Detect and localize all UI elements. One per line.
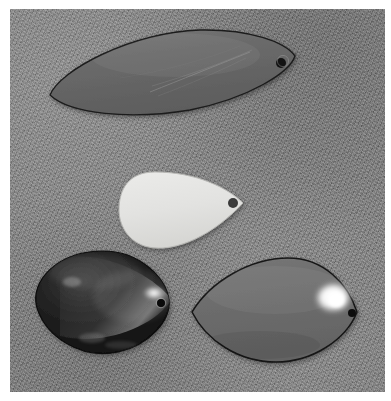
blade-colorado-dark-sheen — [49, 255, 173, 349]
blade-willow-top[interactable] — [50, 30, 295, 115]
photograph-canvas: Four metal fishing lure blades on textur… — [0, 0, 391, 401]
blade-colorado-white-body — [119, 172, 243, 248]
blade-colorado-white-hole-inner — [230, 200, 236, 206]
blade-colorado-dark[interactable] — [36, 251, 173, 354]
blade-colorado-dark-hole — [157, 299, 165, 307]
blade-indiana-gray-hole — [348, 309, 356, 317]
blade-indiana-gray[interactable] — [192, 258, 357, 362]
blade-colorado-white[interactable] — [119, 172, 243, 248]
blade-group — [0, 0, 391, 401]
